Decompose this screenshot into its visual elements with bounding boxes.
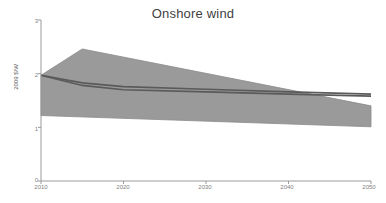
chart-figure: Onshore wind 2009 $/W 3 2 1 0 2010 2020 …	[0, 0, 386, 203]
uncertainty-band	[41, 49, 371, 127]
plot-area	[0, 0, 386, 203]
